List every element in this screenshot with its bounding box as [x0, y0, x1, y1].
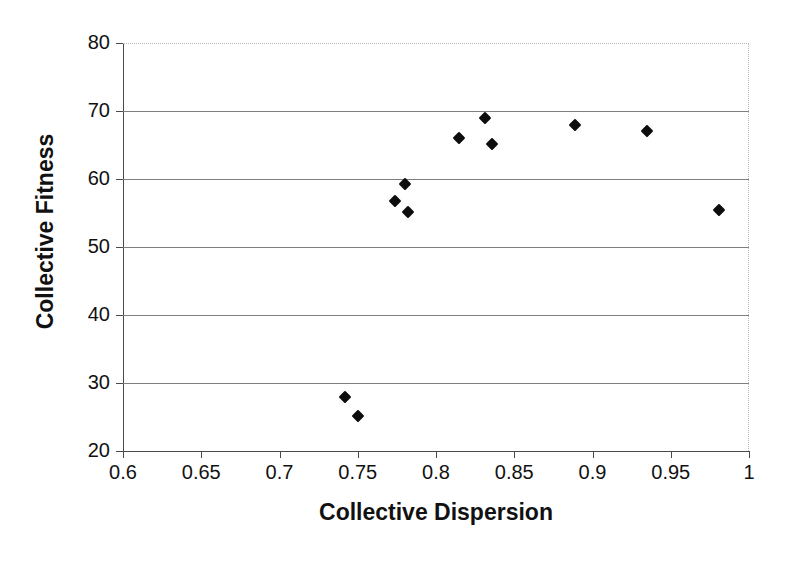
x-tick-label: 1 [714, 461, 784, 483]
y-tick-mark-30 [116, 383, 123, 384]
y-tick-label: 60 [66, 168, 110, 188]
y-tick-label: 80 [66, 32, 110, 52]
y-tick-mark-20 [116, 451, 123, 452]
data-point [401, 206, 414, 219]
data-point [453, 131, 466, 144]
x-tick-mark-0.7 [280, 451, 281, 458]
x-tick-mark-0.85 [514, 451, 515, 458]
y-tick-label: 40 [66, 304, 110, 324]
y-tick-label: 50 [66, 236, 110, 256]
y-tick-mark-50 [116, 247, 123, 248]
x-tick-label: 0.8 [401, 461, 471, 483]
x-axis-title: Collective Dispersion [123, 499, 749, 526]
x-tick-mark-0.6 [123, 451, 124, 458]
plot-border-top [123, 43, 749, 44]
x-tick-mark-0.9 [593, 451, 594, 458]
y-tick-label: 30 [66, 372, 110, 392]
gridline-y-30 [123, 383, 749, 384]
data-point [486, 138, 499, 151]
gridline-y-60 [123, 179, 749, 180]
scatter-chart-figure: Collective Fitness Collective Dispersion… [0, 0, 793, 562]
x-tick-mark-0.65 [201, 451, 202, 458]
x-tick-label: 0.75 [323, 461, 393, 483]
data-point [641, 125, 654, 138]
x-tick-label: 0.65 [166, 461, 236, 483]
x-tick-mark-1 [749, 451, 750, 458]
gridline-y-50 [123, 247, 749, 248]
x-tick-mark-0.75 [358, 451, 359, 458]
plot-area [123, 43, 749, 451]
y-tick-mark-80 [116, 43, 123, 44]
x-tick-label: 0.95 [636, 461, 706, 483]
data-point [713, 204, 726, 217]
gridline-y-70 [123, 111, 749, 112]
x-tick-label: 0.7 [245, 461, 315, 483]
data-point [569, 118, 582, 131]
x-tick-mark-0.95 [671, 451, 672, 458]
x-tick-label: 0.85 [479, 461, 549, 483]
y-tick-mark-40 [116, 315, 123, 316]
y-tick-mark-70 [116, 111, 123, 112]
y-axis-title: Collective Fitness [32, 72, 59, 392]
data-point [351, 410, 364, 423]
data-point [339, 390, 352, 403]
y-tick-label: 20 [66, 440, 110, 460]
y-tick-label: 70 [66, 100, 110, 120]
data-point [389, 195, 402, 208]
data-point [478, 112, 491, 125]
gridline-y-40 [123, 315, 749, 316]
y-tick-mark-60 [116, 179, 123, 180]
x-tick-label: 0.9 [558, 461, 628, 483]
x-tick-label: 0.6 [88, 461, 158, 483]
x-tick-mark-0.8 [436, 451, 437, 458]
